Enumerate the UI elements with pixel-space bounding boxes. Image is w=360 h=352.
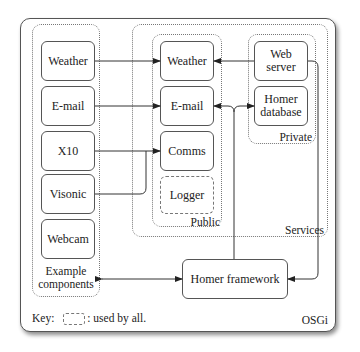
connectors <box>0 0 360 352</box>
edge-framework-up <box>214 106 234 259</box>
edge-webserver-framework <box>288 61 318 279</box>
edge-visonic <box>95 151 146 194</box>
edge-framework-db <box>234 106 254 112</box>
